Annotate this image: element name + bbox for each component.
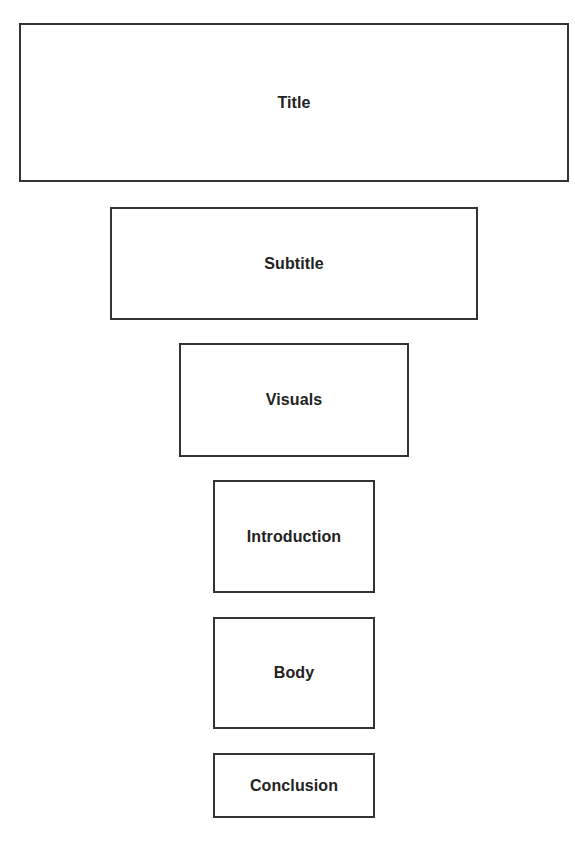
box-visuals: Visuals [179,343,409,457]
box-title-label: Title [277,94,310,112]
box-visuals-label: Visuals [266,391,322,409]
box-introduction-label: Introduction [247,528,342,546]
box-subtitle-label: Subtitle [264,255,323,273]
box-body: Body [213,617,375,729]
box-introduction: Introduction [213,480,375,593]
box-conclusion-label: Conclusion [250,777,338,795]
box-title: Title [19,23,569,182]
box-subtitle: Subtitle [110,207,478,320]
box-conclusion: Conclusion [213,753,375,818]
box-body-label: Body [274,664,314,682]
